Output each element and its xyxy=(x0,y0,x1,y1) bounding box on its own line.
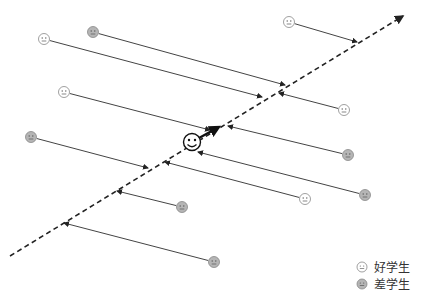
bad-student-icon xyxy=(88,27,99,38)
legend: 好学生 差学生 xyxy=(356,258,410,292)
projection-line xyxy=(279,93,338,108)
good-student-icon xyxy=(59,87,70,98)
projection-line xyxy=(99,34,285,85)
projection-line xyxy=(295,24,357,42)
legend-good-label: 好学生 xyxy=(374,258,410,275)
good-student-icon xyxy=(339,105,350,116)
projection-line xyxy=(37,139,148,168)
projection-line xyxy=(117,191,176,206)
bad-student-icon xyxy=(343,150,354,161)
legend-bad-label: 差学生 xyxy=(374,275,410,292)
projection-line xyxy=(70,94,210,130)
projection-line xyxy=(165,162,299,197)
projection-line xyxy=(228,126,342,154)
good-student-icon xyxy=(356,261,368,273)
direction-arrow xyxy=(199,127,219,138)
projection-line xyxy=(64,223,208,260)
legend-good: 好学生 xyxy=(356,258,410,275)
bad-student-icon xyxy=(177,202,188,213)
projection-line xyxy=(198,152,359,194)
projection-axis xyxy=(10,16,403,256)
good-student-icon xyxy=(284,17,295,28)
bad-student-icon xyxy=(26,132,37,143)
legend-bad: 差学生 xyxy=(356,275,410,292)
good-student-icon xyxy=(39,34,50,45)
projection-diagram xyxy=(0,0,425,301)
bad-student-icon xyxy=(356,278,368,290)
bad-student-icon xyxy=(360,190,371,201)
good-student-icon xyxy=(300,194,311,205)
bad-student-icon xyxy=(209,257,220,268)
